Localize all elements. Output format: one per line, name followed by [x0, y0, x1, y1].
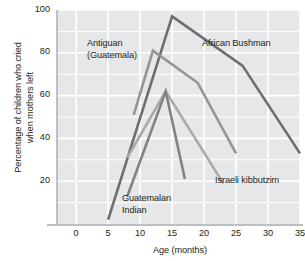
- y-tick-label: 40: [24, 132, 50, 142]
- x-tick-label: 30: [255, 228, 281, 238]
- y-tick-label: 60: [24, 89, 50, 99]
- x-tick-label: 0: [63, 228, 89, 238]
- x-tick-label: 15: [159, 228, 185, 238]
- series-annotation: Guatemalan Indian: [122, 193, 171, 216]
- series-annotation: African Bushman: [202, 38, 270, 50]
- y-tick-label: 100: [24, 4, 50, 14]
- x-tick-label: 5: [95, 228, 121, 238]
- y-tick-label: 20: [24, 175, 50, 185]
- y-tick-label: 80: [24, 46, 50, 56]
- y-axis-label: Percentage of children who cried when mo…: [13, 38, 36, 178]
- x-tick-label: 20: [191, 228, 217, 238]
- line-chart-figure: Percentage of children who cried when mo…: [0, 0, 305, 261]
- x-axis-label: Age (months): [55, 245, 305, 255]
- x-tick-label: 35: [287, 228, 305, 238]
- series-annotation: Israeli kibbutzim: [215, 175, 279, 187]
- series-annotation: Antiguan (Guatemala): [87, 38, 137, 61]
- x-tick-label: 25: [223, 228, 249, 238]
- x-tick-label: 10: [127, 228, 153, 238]
